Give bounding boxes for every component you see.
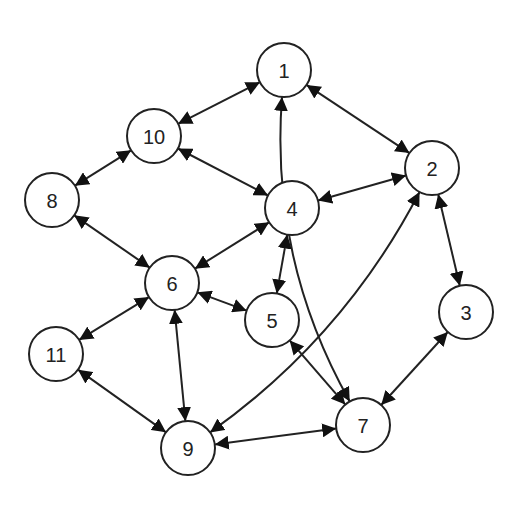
node-label: 2	[426, 158, 437, 180]
node-3: 3	[439, 285, 493, 339]
node-10: 10	[127, 109, 181, 163]
edge-6-11	[79, 297, 149, 340]
node-label: 5	[266, 310, 277, 332]
node-8: 8	[25, 173, 79, 227]
edge-10-8	[75, 150, 131, 185]
edge-8-6	[74, 215, 150, 267]
edge-10-4	[178, 148, 268, 195]
edge-6-9	[175, 310, 186, 421]
edge-2-4	[318, 175, 406, 200]
node-5: 5	[245, 293, 299, 347]
node-label: 4	[286, 198, 297, 220]
node-label: 7	[357, 415, 368, 437]
node-2: 2	[405, 141, 459, 195]
node-label: 6	[166, 273, 177, 295]
node-4: 4	[265, 181, 319, 235]
node-label: 11	[46, 344, 67, 366]
node-label: 10	[143, 126, 165, 148]
edge-1-2	[307, 85, 410, 153]
node-11: 11	[29, 327, 83, 381]
edge-5-7	[290, 340, 346, 404]
node-layer: 1234567891011	[25, 43, 493, 475]
edge-6-5	[197, 292, 246, 310]
node-7: 7	[336, 398, 390, 452]
node-1: 1	[257, 43, 311, 97]
node-label: 8	[46, 190, 57, 212]
node-9: 9	[161, 421, 215, 475]
edge-11-9	[78, 370, 166, 433]
edge-4-6	[195, 222, 269, 268]
edge-1-10	[178, 82, 260, 124]
node-label: 9	[182, 438, 193, 460]
edge-1-7	[280, 97, 349, 402]
edge-2-3	[438, 194, 460, 285]
edge-4-5	[277, 235, 288, 294]
node-label: 3	[460, 302, 471, 324]
node-6: 6	[145, 256, 199, 310]
edge-3-7	[381, 332, 448, 405]
node-label: 1	[278, 60, 289, 82]
edge-9-7	[215, 429, 336, 445]
graph-canvas: 1234567891011	[0, 0, 523, 515]
